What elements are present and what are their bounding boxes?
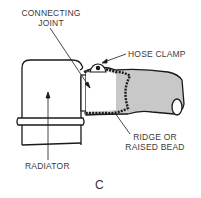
label-ridge: RIDGE OR RAISED BEAD bbox=[125, 132, 185, 152]
label-ridge-line1: RIDGE OR bbox=[125, 132, 185, 142]
label-hose-clamp: HOSE CLAMP bbox=[128, 49, 186, 59]
label-ridge-line2: RAISED BEAD bbox=[125, 142, 185, 152]
label-connecting-joint: CONNECTING JOINT bbox=[20, 8, 82, 28]
figure-letter: C bbox=[95, 178, 104, 192]
hose bbox=[84, 67, 184, 115]
radiator bbox=[17, 60, 84, 145]
label-connecting-joint-line1: CONNECTING bbox=[20, 8, 82, 18]
label-connecting-joint-line2: JOINT bbox=[20, 18, 82, 28]
hose-clamp bbox=[90, 64, 106, 72]
label-radiator: RADIATOR bbox=[25, 161, 70, 171]
